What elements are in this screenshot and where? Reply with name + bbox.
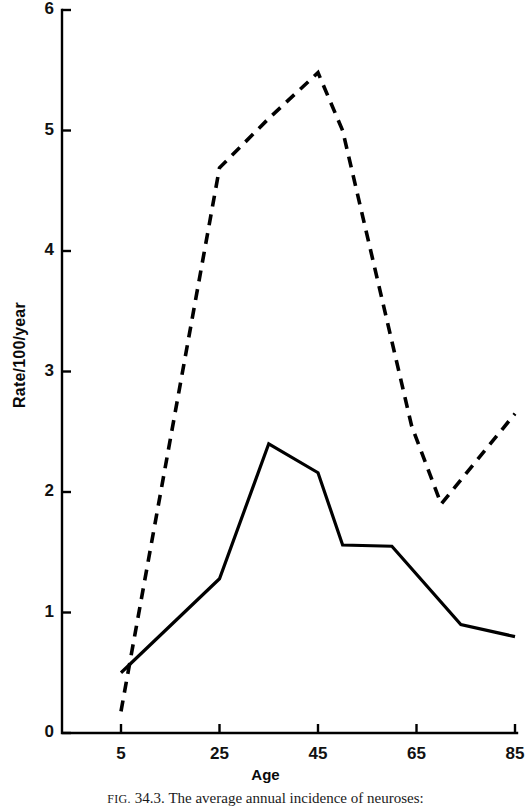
y-axis-title: Rate/100/year [11, 275, 29, 435]
y-tick-label: 2 [28, 481, 54, 501]
x-tick-label: 25 [200, 744, 240, 764]
x-tick-label: 85 [495, 744, 531, 764]
x-tick-label: 5 [101, 744, 141, 764]
x-axis-title: Age [0, 766, 531, 783]
caption-number: 34.3. [135, 790, 165, 806]
figure-container: 0123456 525456585 Rate/100/year Age FIG.… [0, 0, 531, 809]
x-tick-label: 65 [397, 744, 437, 764]
caption-text: The average annual incidence of neuroses… [168, 790, 423, 806]
chart-ticks [62, 10, 515, 733]
chart-series [121, 73, 515, 712]
y-tick-label: 0 [28, 722, 54, 742]
y-tick-label: 6 [28, 0, 54, 19]
y-tick-label: 5 [28, 120, 54, 140]
y-tick-label: 4 [28, 240, 54, 260]
chart-axes [62, 10, 517, 733]
series-solid [121, 444, 515, 673]
caption-prefix: FIG. [107, 792, 131, 806]
y-tick-label: 1 [28, 602, 54, 622]
y-tick-label: 3 [28, 361, 54, 381]
line-chart [0, 0, 531, 760]
x-tick-label: 45 [298, 744, 338, 764]
figure-caption: FIG. 34.3. The average annual incidence … [0, 790, 531, 807]
